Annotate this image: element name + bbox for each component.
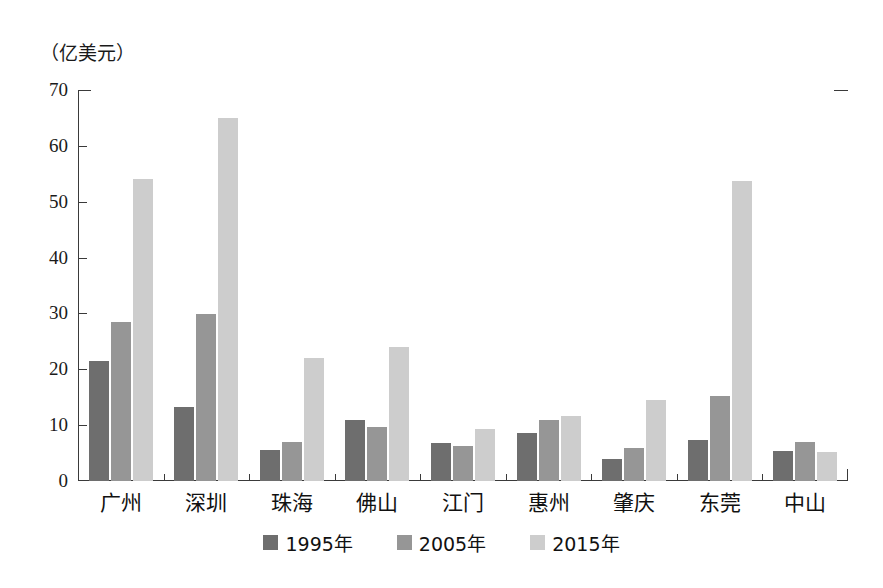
bar [367,427,387,481]
x-axis-tick [506,474,507,481]
legend-label: 2015年 [552,529,619,556]
legend-label: 2005年 [419,529,486,556]
x-axis-category-labels: 广州深圳珠海佛山江门惠州肇庆东莞中山 [78,486,848,518]
bar [431,443,451,481]
y-axis-tick-label: 10 [49,415,68,434]
y-axis-tick-label: 40 [49,248,68,267]
bar [795,442,815,481]
bar [561,416,581,481]
bar [89,361,109,481]
bar-group [89,90,153,481]
bar [389,347,409,481]
x-axis-category-label: 东莞 [677,486,763,516]
bar [688,440,708,481]
bar [817,452,837,481]
y-axis-tick-label: 30 [49,303,68,322]
bar [111,322,131,481]
bar-group [517,90,581,481]
legend-swatch [397,535,412,550]
bar [517,433,537,481]
bar [602,459,622,481]
x-axis-category-label: 佛山 [335,486,421,516]
y-axis-tick [78,258,87,259]
frame-corner-bottom-right [847,469,848,481]
legend-swatch [530,535,545,550]
bar-group [688,90,752,481]
bar-group [174,90,238,481]
bar [260,450,280,481]
y-axis-tick-label: 50 [49,192,68,211]
bar [773,451,793,481]
y-axis-tick-label: 0 [59,471,69,490]
legend-swatch [263,535,278,550]
y-axis-tick-label: 60 [49,136,68,155]
x-axis-category-label: 肇庆 [591,486,677,516]
bar-group [773,90,837,481]
x-axis-tick [249,474,250,481]
y-axis-tick [78,369,87,370]
legend-label: 1995年 [285,529,352,556]
bar [345,420,365,481]
bar [218,118,238,481]
bar-group [260,90,324,481]
bar [624,448,644,482]
x-axis-category-label: 广州 [78,486,164,516]
bar [133,179,153,481]
x-axis-tick [762,474,763,481]
x-axis-tick [335,474,336,481]
y-axis-tick-labels: 010203040506070 [30,90,68,481]
bar [475,429,495,482]
bar [196,314,216,481]
x-axis-tick [591,474,592,481]
bar-chart: （亿美元） 010203040506070 广州深圳珠海佛山江门惠州肇庆东莞中山… [0,0,883,588]
bar [453,446,473,481]
x-axis-tick [164,474,165,481]
bar [646,400,666,481]
chart-legend: 1995年2005年2015年 [0,529,883,556]
bar [174,407,194,481]
plot-area [78,90,848,481]
y-axis-tick [78,146,87,147]
bar-group [431,90,495,481]
bar [732,181,752,482]
y-axis-tick [78,202,87,203]
bar [304,358,324,481]
y-axis-tick [78,90,87,91]
bar [710,396,730,481]
x-axis-category-label: 江门 [420,486,506,516]
y-axis-tick [78,425,87,426]
y-axis-line [78,90,79,481]
bar-group [602,90,666,481]
y-axis-tick [78,313,87,314]
x-axis-category-label: 珠海 [249,486,335,516]
x-axis-tick [677,474,678,481]
x-axis-category-label: 惠州 [506,486,592,516]
bar-group [345,90,409,481]
bar [282,442,302,481]
bar [539,420,559,481]
y-axis-tick-label: 20 [49,359,68,378]
x-axis-tick [420,474,421,481]
x-axis-category-label: 深圳 [164,486,250,516]
legend-item: 2015年 [530,529,619,556]
legend-item: 2005年 [397,529,486,556]
y-axis-tick-label: 70 [49,80,68,99]
x-axis-category-label: 中山 [762,486,848,516]
y-axis-unit-label: （亿美元） [40,38,135,65]
legend-item: 1995年 [263,529,352,556]
